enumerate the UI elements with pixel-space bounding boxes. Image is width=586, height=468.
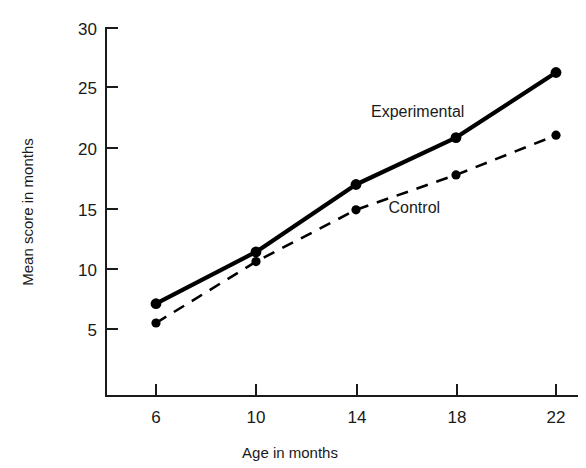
x-axis-title: Age in months — [242, 444, 338, 461]
data-point — [551, 131, 560, 140]
data-point — [251, 257, 260, 266]
chart-container: 30 25 20 15 10 5 6 10 14 18 22 Mean scor… — [0, 0, 586, 468]
data-point — [151, 318, 160, 327]
chart-background — [0, 0, 586, 468]
x-tick-label-6: 6 — [151, 408, 160, 427]
x-tick-label-18: 18 — [448, 408, 467, 427]
data-point — [251, 247, 262, 258]
line-chart: 30 25 20 15 10 5 6 10 14 18 22 Mean scor… — [0, 0, 586, 468]
y-tick-label-15: 15 — [78, 201, 97, 220]
y-tick-label-20: 20 — [78, 140, 97, 159]
x-tick-label-14: 14 — [348, 408, 367, 427]
x-tick-label-22: 22 — [547, 408, 566, 427]
series-label-control: Control — [389, 199, 441, 216]
data-point — [451, 132, 462, 143]
data-point — [451, 170, 460, 179]
y-tick-label-25: 25 — [78, 79, 97, 98]
y-tick-label-10: 10 — [78, 261, 97, 280]
x-tick-label-10: 10 — [247, 408, 266, 427]
y-axis-title: Mean score in months — [19, 138, 36, 286]
data-point — [351, 179, 362, 190]
data-point — [151, 298, 162, 309]
y-tick-label-5: 5 — [88, 321, 97, 340]
data-point — [351, 205, 360, 214]
y-tick-label-30: 30 — [78, 20, 97, 39]
data-point — [551, 67, 562, 78]
series-label-experimental: Experimental — [371, 103, 464, 120]
